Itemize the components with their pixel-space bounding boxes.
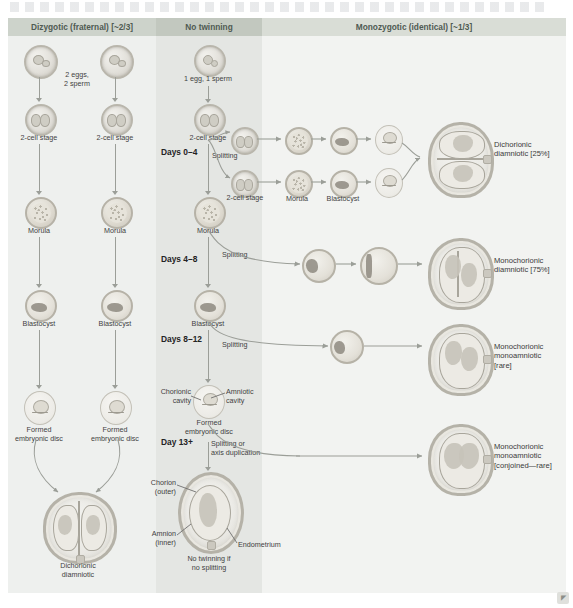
splitting-label-13-plus: Splitting or axis duplication bbox=[211, 440, 267, 457]
arrowhead-dizygotic-left-2 bbox=[36, 191, 42, 195]
arrow-dizygotic-left-2 bbox=[39, 144, 40, 192]
days-label-0-4: Days 0–4 bbox=[161, 147, 197, 157]
mz-row1a-morula bbox=[285, 127, 313, 155]
endometrium-callout: Endometrium bbox=[238, 541, 290, 550]
panel-monozygotic bbox=[262, 18, 566, 593]
no-twinning-footer: No twinning if no splitting bbox=[169, 555, 249, 572]
splitting-label-4-8: Splitting bbox=[222, 251, 266, 260]
twinning-diagram: Dizygotic (fraternal) [~2/3] No twinning… bbox=[0, 0, 573, 608]
no-twinning-zygote bbox=[194, 45, 226, 77]
no-twinning-blastocyst bbox=[194, 290, 226, 322]
dizygotic-right-morula bbox=[101, 197, 133, 229]
amnion-callout: Amnion (inner) bbox=[138, 530, 176, 547]
arrow-dizygotic-right-2 bbox=[115, 144, 116, 192]
mz-blastocyst-label: Blastocyst bbox=[317, 195, 369, 204]
mz-outcome-label-2: Monochorionic diamniotic [75%] bbox=[494, 256, 570, 275]
mz-row1a-disc bbox=[375, 125, 403, 155]
dizygotic-left-blastocyst-label: Blastocyst bbox=[11, 320, 67, 329]
mz-row2-implanting bbox=[360, 247, 398, 285]
splitting-label-8-12: Splitting bbox=[222, 341, 266, 350]
arrow-no-twinning-4 bbox=[208, 330, 209, 380]
dizygotic-left-disc bbox=[24, 391, 56, 425]
dizygotic-gametes-note: 2 eggs, 2 sperm bbox=[52, 71, 102, 88]
dizygotic-right-disc bbox=[100, 391, 132, 425]
mz-outcome-uterus-3 bbox=[428, 324, 494, 396]
mz-row3-blastocyst bbox=[330, 330, 364, 364]
column-header-dizygotic: Dizygotic (fraternal) [~2/3] bbox=[8, 18, 156, 36]
dizygotic-outcome-uterus bbox=[43, 492, 117, 564]
split-2cell-label: 2-cell stage bbox=[221, 194, 269, 203]
dizygotic-left-blastocyst bbox=[25, 290, 57, 322]
dizygotic-left-2cell-label: 2-cell stage bbox=[9, 134, 69, 143]
amniotic-cavity-callout: Amniotic cavity bbox=[226, 388, 270, 405]
arrow-dizygotic-right-3 bbox=[115, 237, 116, 285]
mz-outcome-label-4: Monochorionic monoamniotic [conjoined—ra… bbox=[494, 442, 573, 470]
column-header-monozygotic: Monozygotic (identical) [~1/3] bbox=[262, 18, 566, 36]
mz-row2-blastocyst bbox=[302, 249, 336, 283]
arrowhead-dizygotic-right-3 bbox=[112, 284, 118, 288]
mz-morula-label: Morula bbox=[274, 195, 320, 204]
mz-outcome-label-1: Dichorionic diamniotic [25%] bbox=[494, 140, 570, 159]
chorion-callout: Chorion (outer) bbox=[138, 479, 176, 496]
arrow-no-twinning-1 bbox=[208, 86, 209, 100]
days-label-4-8: Days 4–8 bbox=[161, 254, 197, 264]
no-twinning-2cell-label: 2-cell stage bbox=[178, 134, 238, 143]
arrowhead-no-twinning-2 bbox=[205, 191, 211, 195]
chorionic-cavity-callout: Chorionic cavity bbox=[147, 388, 191, 405]
arrow-dizygotic-left-1 bbox=[39, 77, 40, 99]
arrow-dizygotic-left-4 bbox=[39, 330, 40, 386]
dizygotic-right-blastocyst-label: Blastocyst bbox=[87, 320, 143, 329]
arrow-dizygotic-right-1 bbox=[115, 77, 116, 99]
dizygotic-right-zygote bbox=[100, 45, 134, 79]
arrowhead-dizygotic-left-1 bbox=[36, 98, 42, 102]
mz-row1b-disc bbox=[375, 168, 403, 198]
no-twinning-2cell bbox=[194, 104, 226, 136]
mz-row1a-blastocyst bbox=[330, 127, 358, 155]
arrowhead-no-twinning-3 bbox=[205, 284, 211, 288]
arrowhead-dizygotic-right-1 bbox=[112, 98, 118, 102]
no-twinning-fetus-uterus bbox=[178, 472, 244, 554]
dizygotic-right-morula-label: Morula bbox=[90, 227, 140, 236]
dizygotic-left-morula-label: Morula bbox=[14, 227, 64, 236]
arrowhead-no-twinning-1 bbox=[205, 99, 211, 103]
mz-outcome-uterus-4 bbox=[428, 424, 494, 496]
column-header-no-twinning: No twinning bbox=[156, 18, 262, 36]
no-twinning-disc bbox=[193, 385, 225, 419]
arrow-no-twinning-5 bbox=[208, 442, 209, 468]
days-label-8-12: Days 8–12 bbox=[161, 334, 202, 344]
arrowhead-no-twinning-4 bbox=[205, 379, 211, 383]
mz-outcome-uterus-1 bbox=[428, 122, 494, 198]
dizygotic-right-2cell bbox=[101, 104, 133, 136]
dizygotic-left-morula bbox=[25, 197, 57, 229]
page-top-artifact bbox=[10, 2, 550, 12]
arrowhead-dizygotic-left-4 bbox=[36, 385, 42, 389]
mz-outcome-uterus-2 bbox=[428, 238, 494, 310]
corner-mark: ◤ bbox=[557, 592, 569, 604]
arrowhead-no-twinning-5 bbox=[205, 467, 211, 471]
dizygotic-right-blastocyst bbox=[101, 290, 133, 322]
no-twinning-morula-label: Morula bbox=[183, 227, 233, 236]
arrowhead-dizygotic-right-4 bbox=[112, 385, 118, 389]
split-2cell-top bbox=[231, 127, 259, 155]
dizygotic-right-disc-label: Formed embryonic disc bbox=[82, 426, 148, 443]
mz-outcome-label-3: Monochorionic monoamniotic [rare] bbox=[494, 342, 570, 370]
dizygotic-left-2cell bbox=[25, 104, 57, 136]
dizygotic-outcome-label: Dichorionic diamniotic bbox=[42, 562, 114, 579]
arrowhead-dizygotic-right-2 bbox=[112, 191, 118, 195]
arrow-dizygotic-right-4 bbox=[115, 330, 116, 386]
arrow-no-twinning-3 bbox=[208, 237, 209, 285]
no-twinning-blastocyst-label: Blastocyst bbox=[180, 320, 236, 329]
no-twinning-gamete-note: 1 egg, 1 sperm bbox=[170, 75, 246, 84]
dizygotic-left-disc-label: Formed embryonic disc bbox=[6, 426, 72, 443]
arrow-dizygotic-left-3 bbox=[39, 237, 40, 285]
days-label-13-plus: Day 13+ bbox=[161, 437, 193, 447]
no-twinning-disc-label: Formed embryonic disc bbox=[176, 419, 242, 436]
arrowhead-dizygotic-left-3 bbox=[36, 284, 42, 288]
arrow-no-twinning-2 bbox=[208, 144, 209, 192]
dizygotic-right-2cell-label: 2-cell stage bbox=[85, 134, 145, 143]
